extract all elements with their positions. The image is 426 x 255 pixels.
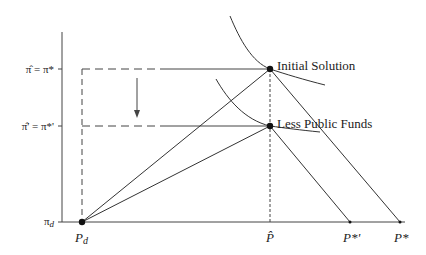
label-p-star: P*	[393, 230, 409, 245]
down-arrow-head-icon	[134, 110, 140, 118]
label-pi-d: πd	[44, 215, 55, 229]
point-pstar-prime	[349, 221, 352, 224]
point-pstar	[399, 221, 402, 224]
point-pd	[79, 219, 85, 225]
ray-pd-to-reduced	[82, 126, 270, 222]
point-initial-solution	[267, 66, 273, 72]
line-reduced-to-pstarprime	[270, 126, 350, 222]
label-pd: Pd	[74, 230, 89, 246]
economics-diagram: Initial Solution Less Public Funds π̂ = …	[0, 0, 426, 255]
line-initial-to-pstar	[270, 69, 400, 222]
curve-initial	[230, 16, 325, 85]
label-pi-hat: π̂ = π*	[26, 63, 54, 75]
label-initial-solution: Initial Solution	[277, 58, 356, 73]
label-p-hat: P̂	[265, 230, 274, 245]
label-less-public-funds: Less Public Funds	[277, 116, 372, 131]
ray-pd-to-initial	[82, 69, 270, 222]
point-less-public-funds	[267, 123, 273, 129]
label-pi-hat-prime: π̂' = π*'	[22, 120, 54, 132]
label-p-star-prime: P*'	[342, 230, 360, 245]
